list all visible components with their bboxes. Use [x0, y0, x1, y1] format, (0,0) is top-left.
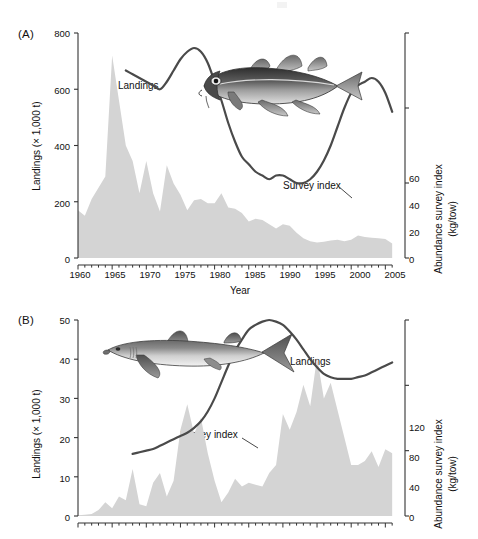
fisheries-figure: (A) Landings (× 1,000 t) 0 200 400 600 8… — [0, 0, 478, 539]
atlantic-cod-fish-icon — [196, 42, 368, 128]
panel-a: (A) Landings (× 1,000 t) 0 200 400 600 8… — [0, 0, 478, 300]
survey-label-leader — [242, 438, 258, 448]
panel-b: (B) Landings (× 1,000 t) 0 10 20 30 40 5… — [0, 300, 478, 539]
survey-label-leader — [338, 186, 352, 198]
spiny-dogfish-shark-icon — [100, 322, 298, 388]
